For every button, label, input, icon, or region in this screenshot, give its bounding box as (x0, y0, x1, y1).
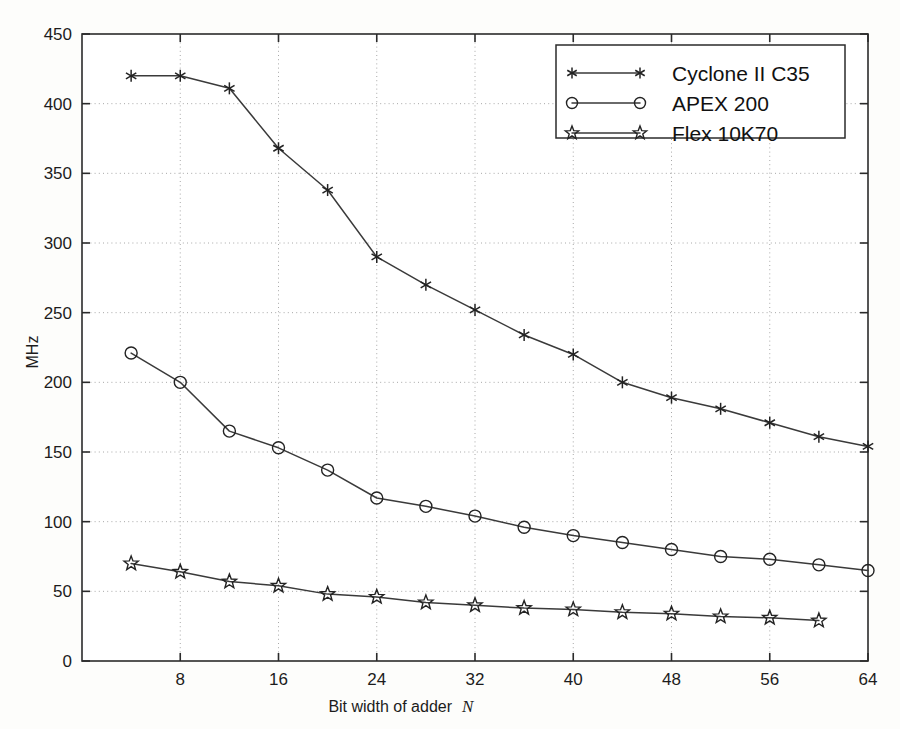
y-axis-title: MHz (24, 336, 41, 369)
figure-container: 050100150200250300350400450 816243240485… (0, 0, 900, 729)
legend-label: Flex 10K70 (672, 122, 778, 145)
y-tick-label: 50 (53, 582, 72, 601)
x-tick-label: 32 (466, 670, 485, 689)
x-tick-label: 8 (176, 670, 185, 689)
chart-page: 050100150200250300350400450 816243240485… (0, 0, 900, 729)
x-tick-label: 64 (859, 670, 878, 689)
y-tick-label: 250 (44, 304, 72, 323)
legend-label: Cyclone II C35 (672, 62, 810, 85)
y-tick-label: 200 (44, 373, 72, 392)
x-axis-title: Bit width of adder (328, 698, 452, 715)
y-tick-label: 0 (63, 652, 72, 671)
legend[interactable]: Cyclone II C35APEX 200Flex 10K70 (556, 45, 845, 145)
x-tick-label: 40 (564, 670, 583, 689)
legend-label: APEX 200 (672, 92, 769, 115)
y-tick-label: 400 (44, 95, 72, 114)
x-tick-label: 24 (367, 670, 386, 689)
y-tick-label: 350 (44, 164, 72, 183)
y-tick-label: 150 (44, 443, 72, 462)
x-axis-title-symbol: N (461, 697, 475, 716)
y-tick-label: 300 (44, 234, 72, 253)
line-chart-svg: 050100150200250300350400450 816243240485… (0, 0, 900, 729)
x-tick-label: 48 (662, 670, 681, 689)
x-tick-label: 16 (269, 670, 288, 689)
y-tick-label: 100 (44, 513, 72, 532)
x-tick-label: 56 (760, 670, 779, 689)
y-tick-label: 450 (44, 25, 72, 44)
